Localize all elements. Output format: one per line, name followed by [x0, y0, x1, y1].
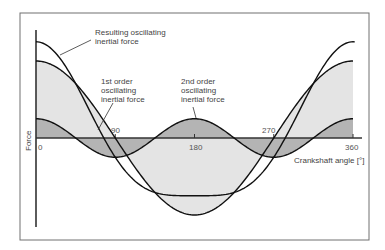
x-tick-label-270: 270: [262, 126, 276, 135]
x-axis-label: Crankshaft angle [°]: [294, 156, 364, 165]
second-order-label-line3: inertial force: [181, 95, 225, 104]
x-tick-label-180: 180: [189, 143, 203, 152]
x-tick-label-0: 0: [38, 143, 43, 152]
x-tick-label-90: 90: [111, 126, 120, 135]
second-order-leader-line: [193, 107, 196, 118]
resulting-label-line1: Resulting oscillating: [95, 28, 166, 37]
inertial-force-diagram: 0 90 180 270 360 Crankshaft angle [°] Fo…: [0, 0, 385, 250]
y-axis-label: Force: [24, 130, 33, 151]
resulting-leader-line: [60, 40, 91, 55]
first-order-label-line3: inertial force: [101, 95, 145, 104]
resulting-label-line2: inertial force: [95, 37, 139, 46]
second-order-label-line2: oscillating: [181, 86, 216, 95]
first-order-label-line2: oscillating: [101, 86, 136, 95]
second-order-label-line1: 2nd order: [181, 77, 216, 86]
x-tick-label-360: 360: [345, 143, 359, 152]
first-order-label-line1: 1st order: [101, 77, 133, 86]
